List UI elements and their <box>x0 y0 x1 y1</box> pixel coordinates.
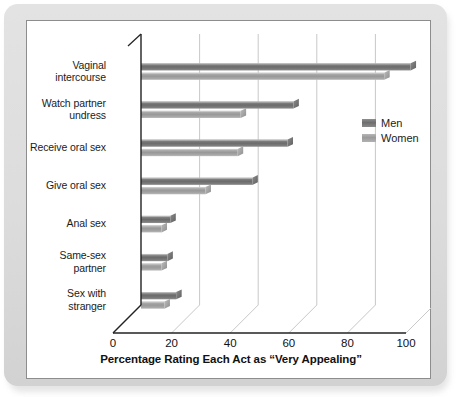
category-label-line: undress <box>20 109 106 122</box>
category-label: Give oral sex <box>20 179 106 192</box>
category-label-line: Watch partner <box>20 97 106 110</box>
x-tick-label: 60 <box>274 337 304 349</box>
x-tick-label: 100 <box>391 337 421 349</box>
chart-figure: VaginalintercourseWatch partnerundressRe… <box>0 0 457 397</box>
x-tick-label: 20 <box>157 337 187 349</box>
bar-series-group <box>141 61 416 309</box>
category-label-line: Same-sex <box>20 249 106 262</box>
category-label: Receive oral sex <box>20 141 106 154</box>
category-label: Sex withstranger <box>20 287 106 312</box>
category-label-line: Anal sex <box>20 217 106 230</box>
legend-item-men: Men <box>362 116 419 129</box>
category-label: Vaginalintercourse <box>20 59 106 84</box>
category-label: Watch partnerundress <box>20 97 106 122</box>
x-tick-label: 0 <box>98 337 128 349</box>
chart-legend: Men Women <box>362 116 419 146</box>
x-tick-label: 40 <box>215 337 245 349</box>
category-label-line: Sex with <box>20 287 106 300</box>
men-swatch-icon <box>362 119 376 127</box>
category-label-line: intercourse <box>20 71 106 84</box>
plot-area: VaginalintercourseWatch partnerundressRe… <box>26 20 431 379</box>
category-label-line: Receive oral sex <box>20 141 106 154</box>
category-label-line: stranger <box>20 300 106 313</box>
category-label-line: Vaginal <box>20 59 106 72</box>
category-label: Anal sex <box>20 217 106 230</box>
category-label-line: partner <box>20 262 106 275</box>
x-tick-label: 80 <box>332 337 362 349</box>
women-swatch-icon <box>362 134 376 142</box>
category-label: Same-sexpartner <box>20 249 106 274</box>
legend-label-women: Women <box>381 132 419 144</box>
legend-item-women: Women <box>362 131 419 144</box>
legend-label-men: Men <box>381 117 402 129</box>
x-axis-title: Percentage Rating Each Act as “Very Appe… <box>66 353 396 365</box>
category-label-line: Give oral sex <box>20 179 106 192</box>
